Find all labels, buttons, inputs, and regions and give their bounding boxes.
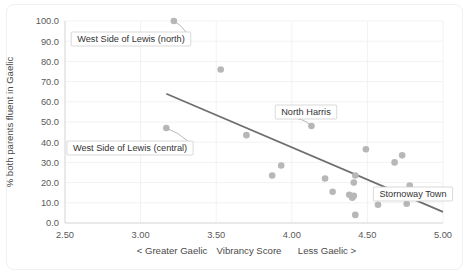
data-point (350, 179, 357, 186)
data-point (391, 159, 398, 166)
annotation-leader-line (166, 128, 189, 142)
data-point (322, 175, 329, 182)
x-tick-label: 4.50 (358, 230, 376, 240)
y-tick-label: 10.0 (41, 198, 59, 208)
scatter-plot: 0.010.020.030.040.050.060.070.080.090.01… (0, 0, 469, 276)
data-point (399, 152, 406, 159)
y-tick-label: 40.0 (41, 138, 59, 148)
data-point (349, 194, 356, 201)
y-tick-label: 30.0 (41, 158, 59, 168)
x-tick-label: 4.00 (283, 230, 301, 240)
data-point (269, 172, 276, 179)
data-point (329, 188, 336, 195)
y-tick-label: 0.0 (46, 218, 59, 228)
x-tick-label: 3.50 (207, 230, 225, 240)
annotation-label: West Side of Lewis (north) (77, 34, 185, 44)
x-axis-title: Vibrancy Score (217, 245, 282, 256)
annotation-label: West Side of Lewis (central) (73, 143, 187, 153)
chart-container: 0.010.020.030.040.050.060.070.080.090.01… (0, 0, 469, 276)
x-tick-label: 3.00 (132, 230, 150, 240)
y-tick-label: 80.0 (41, 57, 59, 67)
annotation-label: Stornoway Town (379, 189, 446, 199)
data-point (375, 202, 382, 209)
y-tick-label: 60.0 (41, 97, 59, 107)
data-point (403, 201, 410, 208)
y-tick-label: 100.0 (36, 16, 59, 26)
x-axis-note-right: Less Gaelic > (298, 245, 357, 256)
y-tick-label: 70.0 (41, 77, 59, 87)
x-tick-label: 5.00 (434, 230, 452, 240)
data-point (363, 146, 370, 153)
data-point (217, 66, 224, 73)
x-tick-label: 2.50 (56, 230, 74, 240)
y-tick-label: 20.0 (41, 178, 59, 188)
data-point (243, 132, 250, 139)
data-point (352, 172, 359, 179)
y-axis-tick-labels: 0.010.020.030.040.050.060.070.080.090.01… (36, 16, 59, 228)
annotation-label: North Harris (281, 107, 331, 117)
y-tick-label: 90.0 (41, 37, 59, 47)
data-point (278, 162, 285, 169)
x-axis-note-left: < Greater Gaelic (137, 245, 208, 256)
y-axis-title: % both parents fluent in Gaelic (4, 56, 15, 187)
point-annotations: West Side of Lewis (north)West Side of L… (67, 21, 453, 204)
x-axis-tick-labels: 2.503.003.504.004.505.00 (56, 230, 452, 240)
data-point (352, 212, 359, 219)
y-tick-label: 50.0 (41, 117, 59, 127)
